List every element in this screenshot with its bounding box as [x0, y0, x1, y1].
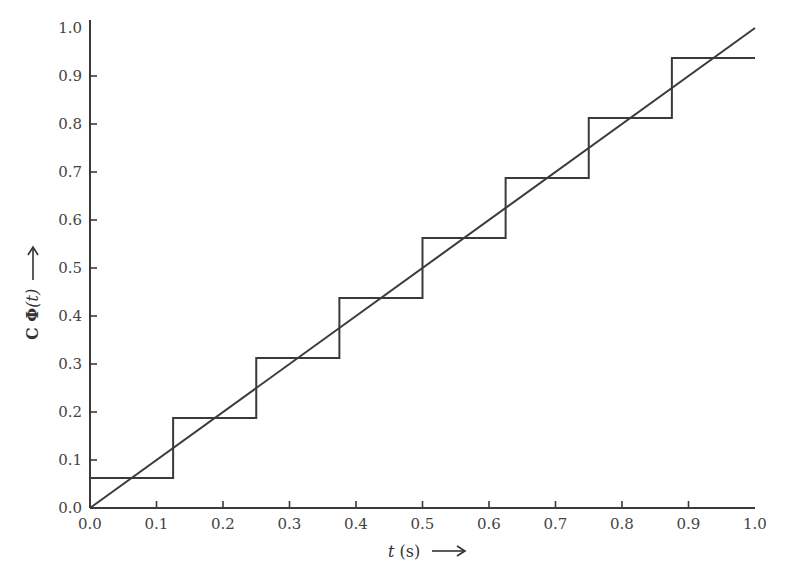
y-tick-label: 0.3: [58, 355, 82, 373]
y-tick-label: 0.1: [58, 451, 82, 469]
y-tick-label: 0.8: [58, 115, 82, 133]
y-axis-title: C Φ(t): [23, 289, 42, 340]
x-tick-label: 0.6: [477, 515, 501, 533]
x-axis-title-unit: (s): [394, 542, 420, 561]
x-tick-label: 0.1: [145, 515, 169, 533]
x-axis-title: t (s): [388, 542, 420, 561]
x-tick-label: 1.0: [743, 515, 767, 533]
y-tick-label: 0.6: [58, 211, 82, 229]
y-tick-label: 1.0: [58, 19, 82, 37]
x-tick-label: 0.0: [78, 515, 102, 533]
x-tick-label: 0.4: [344, 515, 368, 533]
y-axis-ticks: 0.00.10.20.30.40.50.60.70.80.91.0: [58, 19, 97, 517]
y-tick-label: 0.7: [58, 163, 82, 181]
y-tick-label: 0.2: [58, 403, 82, 421]
y-axis-title-prefix: C: [23, 322, 42, 340]
x-tick-label: 0.8: [610, 515, 634, 533]
y-tick-label: 0.0: [58, 499, 82, 517]
plot-area: [90, 28, 755, 508]
y-tick-label: 0.9: [58, 67, 82, 85]
x-tick-label: 0.5: [411, 515, 435, 533]
x-axis-arrow-icon: [432, 546, 465, 556]
y-tick-label: 0.4: [58, 307, 82, 325]
x-tick-label: 0.3: [278, 515, 302, 533]
x-tick-label: 0.7: [544, 515, 568, 533]
x-tick-label: 0.9: [677, 515, 701, 533]
y-tick-label: 0.5: [58, 259, 82, 277]
x-tick-label: 0.2: [211, 515, 235, 533]
y-axis-title-phi: Φ: [23, 308, 42, 322]
block-pulse-staircase: [90, 58, 755, 478]
y-axis-title-arg: (t): [23, 289, 42, 308]
x-axis-ticks: 0.00.10.20.30.40.50.60.70.80.91.0: [78, 501, 767, 533]
y-axis-arrow-icon: [28, 247, 38, 280]
chart: 0.00.10.20.30.40.50.60.70.80.91.0 0.00.1…: [0, 0, 787, 580]
